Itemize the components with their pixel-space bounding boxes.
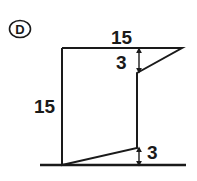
dimension-label-bottom-offset: 3 <box>147 143 158 162</box>
bottom-dimension-arrow <box>136 147 142 167</box>
top-dimension-arrow <box>136 48 142 74</box>
figure-panel: D 15 15 3 3 <box>0 0 197 181</box>
dimension-label-top-offset: 3 <box>116 53 127 72</box>
dimension-label-top-width: 15 <box>111 28 132 47</box>
geometry-figure <box>0 0 197 181</box>
dimension-label-left-height: 15 <box>34 97 55 116</box>
